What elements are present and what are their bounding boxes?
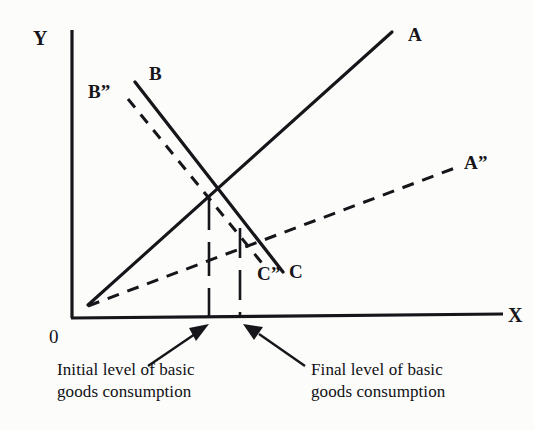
annotation-final-level: Final level of basic goods consumption xyxy=(311,359,521,403)
x-axis-label: X xyxy=(508,305,523,325)
curve-label-a: A xyxy=(408,25,422,44)
curve-a-solid xyxy=(88,32,392,305)
curve-label-a-double-prime: A” xyxy=(464,153,488,172)
curve-label-c-double-prime: C” xyxy=(257,264,281,283)
curve-label-c: C xyxy=(289,262,303,281)
curve-a-double-prime-dashed xyxy=(88,168,455,306)
arrow-head-final xyxy=(243,324,263,340)
annotation-initial-level: Initial level of basic goods consumption xyxy=(57,359,272,403)
x-axis-line xyxy=(71,314,503,318)
curve-label-b-double-prime: B” xyxy=(88,82,111,101)
curve-b-c-double-prime-dashed xyxy=(128,99,266,268)
arrow-head-initial xyxy=(189,324,209,341)
origin-label: 0 xyxy=(49,327,59,346)
y-axis-label: Y xyxy=(33,28,48,48)
figure-container: Y X 0 A A” B B” C C” Initial level of ba… xyxy=(0,0,534,430)
curve-label-b: B xyxy=(149,64,162,83)
